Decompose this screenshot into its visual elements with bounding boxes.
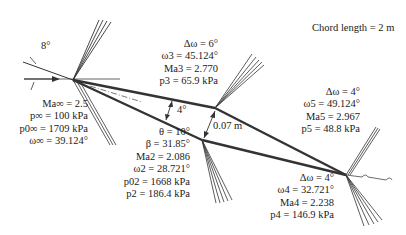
region4-delta-omega: Δω = 4°: [248, 172, 334, 184]
chord-length-label: Chord length = 2 m: [312, 22, 394, 34]
diamond-airfoil-diagram: Chord length = 2 m 8° Ma∞ = 2.5 p∞ = 100…: [0, 0, 406, 235]
freestream-prandtl-meyer-angle: ω∞ = 39.124°: [6, 135, 88, 147]
region5-mach: Ma5 = 2.967: [276, 111, 360, 123]
angle-of-attack-label: 8°: [41, 40, 50, 52]
thickness-label: 0.07 m: [213, 120, 242, 132]
freestream-conditions: Ma∞ = 2.5 p∞ = 100 kPa p0∞ = 1709 kPa ω∞…: [6, 98, 88, 148]
region2-omega: ω2 = 28.721°: [102, 163, 190, 175]
region5-omega: ω5 = 49.124°: [276, 98, 360, 110]
region2-conditions: θ = 10° β = 31.85° Ma2 = 2.086 ω2 = 28.7…: [102, 126, 190, 200]
freestream-pressure: p∞ = 100 kPa: [6, 110, 88, 122]
region3-pressure: p3 = 65.9 kPa: [132, 75, 218, 87]
half-angle-label: 4°: [177, 104, 186, 116]
region3-mach: Ma3 = 2.770: [132, 63, 218, 75]
upper-apex-expansion-fan: [215, 54, 264, 108]
slip-line: [346, 175, 392, 180]
lower-apex-expansion-fan: [202, 140, 232, 203]
arrow-head-icon: [204, 131, 209, 138]
leading-edge-upper-fan: [73, 20, 111, 80]
arrow-head-icon: [165, 114, 170, 120]
region5-conditions: Δω = 4° ω5 = 49.124° Ma5 = 2.967 p5 = 48…: [276, 86, 360, 136]
region4-conditions: Δω = 4° ω4 = 32.721° Ma4 = 2.238 p4 = 14…: [248, 172, 334, 222]
freestream-stagnation-pressure: p0∞ = 1709 kPa: [6, 123, 88, 135]
region3-conditions: Δω = 6° ω3 = 45.124° Ma3 = 2.770 p3 = 65…: [132, 38, 218, 88]
angle-of-attack-line: [23, 62, 73, 80]
region2-stagnation-pressure: p02 = 1668 kPa: [102, 176, 190, 188]
angle-marker-arrow: [31, 82, 34, 90]
arrow-head-icon: [52, 76, 60, 82]
arrow-head-icon: [168, 101, 173, 107]
region4-pressure: p4 = 146.9 kPa: [248, 209, 334, 221]
region5-delta-omega: Δω = 4°: [276, 86, 360, 98]
trailing-edge-lower-fan: [346, 175, 382, 226]
region5-pressure: p5 = 48.8 kPa: [276, 123, 360, 135]
region2-theta: θ = 10°: [102, 126, 190, 138]
angle-marker-arrow: [30, 57, 36, 64]
region2-pressure: p2 = 186.4 kPa: [102, 188, 190, 200]
region2-beta: β = 31.85°: [102, 138, 190, 150]
region3-delta-omega: Δω = 6°: [132, 38, 218, 50]
region3-omega: ω3 = 45.124°: [132, 50, 218, 62]
region4-mach: Ma4 = 2.238: [248, 197, 334, 209]
region4-omega: ω4 = 32.721°: [248, 184, 334, 196]
freestream-mach: Ma∞ = 2.5: [6, 98, 88, 110]
arrow-head-icon: [210, 111, 215, 118]
region2-mach: Ma2 = 2.086: [102, 151, 190, 163]
